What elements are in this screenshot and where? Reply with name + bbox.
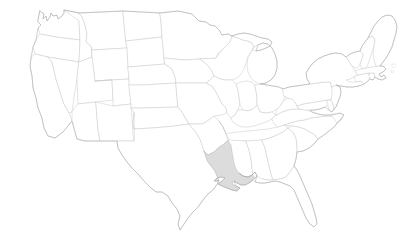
state-wyoming[interactable]	[92, 48, 129, 81]
state-new-mexico[interactable]	[96, 102, 134, 141]
us-map-container	[0, 0, 407, 238]
state-kansas[interactable]	[129, 83, 178, 108]
state-south-dakota[interactable]	[126, 37, 165, 67]
state-north-dakota[interactable]	[123, 11, 162, 41]
state-nebraska[interactable]	[128, 64, 176, 85]
united-states-map[interactable]	[0, 0, 407, 238]
offshore-islands-icon	[391, 64, 396, 73]
state-new-hampshire[interactable]	[360, 36, 375, 69]
